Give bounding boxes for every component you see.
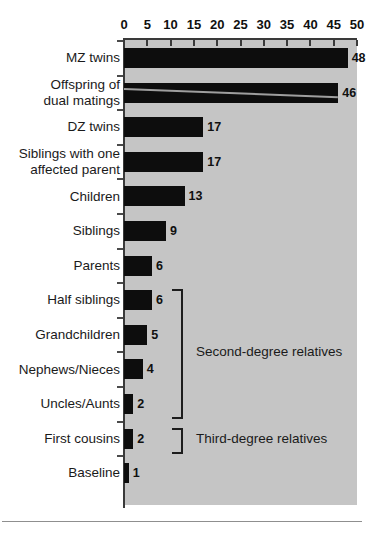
x-tick-mark-45 bbox=[333, 40, 335, 46]
category-label: DZ twins bbox=[0, 119, 120, 135]
group-bracket-label: Third-degree relatives bbox=[196, 431, 327, 447]
value-axis-tick-labels: 05101520253035404550 bbox=[0, 18, 364, 36]
category-label: Siblings with one affected parent bbox=[0, 146, 120, 177]
category-label: Baseline bbox=[0, 465, 120, 481]
x-tick-label-45: 45 bbox=[326, 18, 340, 32]
y-tick-mark bbox=[117, 455, 123, 457]
bar-value-label: 2 bbox=[137, 429, 144, 449]
x-tick-label-15: 15 bbox=[187, 18, 201, 32]
bar bbox=[124, 221, 166, 241]
x-tick-mark-20 bbox=[216, 40, 218, 46]
x-tick-label-5: 5 bbox=[144, 18, 151, 32]
bar bbox=[124, 463, 129, 483]
x-tick-mark-50 bbox=[356, 40, 358, 46]
bar bbox=[124, 256, 152, 276]
bar-value-label: 17 bbox=[207, 152, 221, 172]
category-label: Grandchildren bbox=[0, 327, 120, 343]
y-tick-mark bbox=[117, 421, 123, 423]
category-label: Children bbox=[0, 189, 120, 205]
x-tick-label-30: 30 bbox=[257, 18, 271, 32]
x-tick-mark-10 bbox=[170, 40, 172, 46]
group-bracket bbox=[172, 428, 183, 454]
bar bbox=[124, 394, 133, 414]
x-tick-label-0: 0 bbox=[120, 18, 127, 32]
bar-value-label: 4 bbox=[147, 359, 154, 379]
bar-value-label: 13 bbox=[189, 186, 203, 206]
x-tick-mark-0 bbox=[123, 40, 125, 46]
category-label: Nephews/Nieces bbox=[0, 362, 120, 378]
bar-value-label: 1 bbox=[133, 463, 140, 483]
y-tick-mark bbox=[117, 282, 123, 284]
bar bbox=[124, 48, 348, 68]
bar bbox=[124, 290, 152, 310]
x-tick-label-40: 40 bbox=[303, 18, 317, 32]
y-tick-mark bbox=[117, 40, 123, 42]
bar-value-label: 6 bbox=[156, 290, 163, 310]
bar-value-label: 48 bbox=[352, 48, 366, 68]
category-label: Offspring of dual matings bbox=[0, 77, 120, 108]
bar bbox=[124, 359, 143, 379]
category-label: Uncles/Aunts bbox=[0, 396, 120, 412]
bar bbox=[124, 186, 185, 206]
bar-value-label: 2 bbox=[137, 394, 144, 414]
bar bbox=[124, 117, 203, 137]
bar-value-label: 5 bbox=[151, 325, 158, 345]
y-tick-mark bbox=[117, 144, 123, 146]
bar-value-label: 46 bbox=[342, 83, 356, 103]
y-tick-mark bbox=[117, 213, 123, 215]
bar bbox=[124, 429, 133, 449]
bar-value-label: 17 bbox=[207, 117, 221, 137]
x-tick-label-35: 35 bbox=[280, 18, 294, 32]
group-bracket-label: Second-degree relatives bbox=[196, 344, 342, 360]
y-tick-mark bbox=[117, 75, 123, 77]
x-tick-mark-40 bbox=[309, 40, 311, 46]
footer-rule bbox=[2, 521, 362, 522]
y-tick-mark bbox=[117, 351, 123, 353]
y-tick-mark bbox=[117, 109, 123, 111]
category-label: MZ twins bbox=[0, 50, 120, 66]
y-tick-mark bbox=[117, 248, 123, 250]
y-tick-mark bbox=[117, 178, 123, 180]
x-tick-mark-25 bbox=[240, 40, 242, 46]
bar bbox=[124, 152, 203, 172]
y-tick-mark bbox=[117, 317, 123, 319]
group-bracket bbox=[172, 289, 183, 419]
category-label: Siblings bbox=[0, 223, 120, 239]
x-tick-mark-5 bbox=[146, 40, 148, 46]
category-label: First cousins bbox=[0, 431, 120, 447]
x-tick-label-25: 25 bbox=[233, 18, 247, 32]
bar-value-label: 9 bbox=[170, 221, 177, 241]
x-tick-mark-30 bbox=[263, 40, 265, 46]
bar-value-label: 6 bbox=[156, 256, 163, 276]
x-tick-mark-15 bbox=[193, 40, 195, 46]
category-label: Parents bbox=[0, 258, 120, 274]
x-tick-mark-35 bbox=[286, 40, 288, 46]
x-tick-label-50: 50 bbox=[350, 18, 364, 32]
category-label: Half siblings bbox=[0, 292, 120, 308]
y-tick-mark bbox=[117, 386, 123, 388]
x-tick-label-20: 20 bbox=[210, 18, 224, 32]
bar bbox=[124, 325, 147, 345]
x-tick-label-10: 10 bbox=[163, 18, 177, 32]
